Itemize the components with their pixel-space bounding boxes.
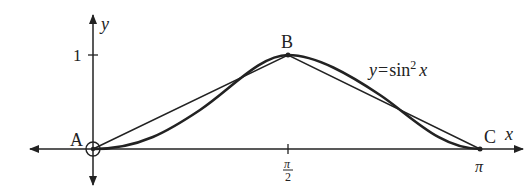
point-c-dot (478, 147, 483, 152)
point-a-dot (91, 147, 95, 151)
x-tick-half-pi-numerator: π (284, 157, 291, 171)
point-a-label: A (70, 130, 83, 150)
curve-equation-label: y=sin2x (367, 58, 427, 80)
y-axis-label: y (99, 14, 109, 34)
curve-eq-lhs: y (367, 60, 377, 80)
point-b-dot (286, 53, 291, 58)
x-axis-label: x (504, 124, 513, 144)
curve-eq-fn: sin (389, 60, 410, 80)
curve-eq-arg: x (418, 60, 427, 80)
x-tick-half-pi-denominator: 2 (285, 170, 291, 184)
y-tick-label-1: 1 (73, 46, 82, 65)
curve-eq-equals: = (378, 60, 388, 80)
sin-squared-diagram: y x 1 π 2 π A B C y=sin2x (0, 0, 531, 195)
point-c-label: C (484, 127, 496, 147)
curve-eq-exponent: 2 (410, 58, 416, 72)
x-tick-pi-label: π (475, 158, 484, 175)
point-b-label: B (281, 32, 293, 52)
